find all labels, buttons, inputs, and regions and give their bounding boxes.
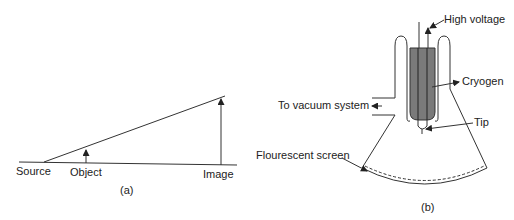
source-label: Source: [16, 166, 51, 177]
axis-line: [19, 162, 237, 165]
screen-label: Flourescent screen: [256, 150, 350, 161]
high-voltage-label: High voltage: [444, 14, 505, 25]
cryogen-reservoir: [410, 48, 435, 120]
image-label: Image: [203, 169, 234, 180]
projection-diagram: [19, 96, 237, 165]
diagram-canvas: [0, 0, 514, 220]
screen-outer: [362, 168, 487, 184]
screen-dashed: [365, 166, 484, 181]
cryogen-label: Cryogen: [462, 76, 504, 87]
object-label: Object: [70, 167, 102, 178]
caption-b: (b): [421, 202, 434, 213]
glass-left: [395, 36, 410, 121]
caption-a: (a): [120, 185, 133, 196]
tip-label: Tip: [474, 117, 489, 128]
vacuum-label: To vacuum system: [278, 100, 369, 111]
tip: [418, 120, 427, 129]
ray-line: [44, 96, 225, 162]
glass-right: [435, 36, 450, 121]
